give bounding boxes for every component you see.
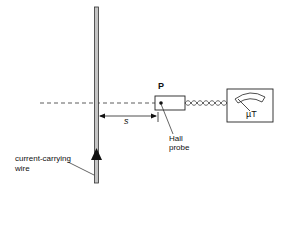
- distance-arrowhead-right-icon: [151, 114, 157, 119]
- distance-s-label: s: [124, 117, 129, 127]
- point-p-label: P: [158, 82, 164, 92]
- distance-arrowhead-left-icon: [99, 114, 105, 119]
- wire-label-line2: wire: [15, 165, 30, 174]
- hall-probe-label-line2: probe: [169, 144, 189, 153]
- wire-label-line1: current-carrying: [15, 155, 71, 164]
- meter-unit-label: µT: [246, 110, 257, 120]
- wire-leader-line: [68, 162, 94, 175]
- twisted-cable-strand-2: [185, 101, 227, 106]
- current-direction-arrow-icon: [91, 148, 102, 160]
